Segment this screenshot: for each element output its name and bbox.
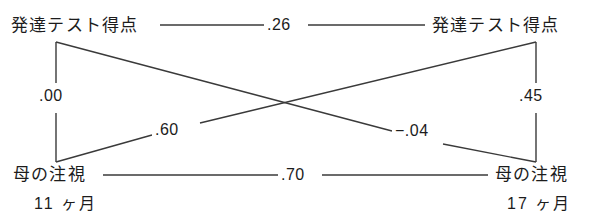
path-diagonal-bottomleft-to-topright-b bbox=[200, 42, 536, 123]
node-label-top-left: 発達テスト得点 bbox=[11, 17, 138, 34]
path-diagonal-topleft-to-bottomright-b bbox=[443, 144, 536, 162]
time-label-right: 17 ヶ月 bbox=[507, 196, 571, 212]
coefficient-left-vertical: .00 bbox=[37, 88, 65, 104]
node-label-top-right: 発達テスト得点 bbox=[432, 17, 559, 34]
path-diagonal-bottomleft-to-topright-a bbox=[56, 135, 152, 162]
coefficient-top-horizontal: .26 bbox=[265, 17, 293, 33]
coefficient-right-vertical: .45 bbox=[517, 88, 545, 104]
coefficient-bottom-horizontal: .70 bbox=[279, 167, 307, 183]
path-diagram: 発達テスト得点 発達テスト得点 母の注視 母の注視 11 ヶ月 17 ヶ月 .2… bbox=[0, 0, 592, 223]
coefficient-diagonal-up: −.04 bbox=[392, 122, 432, 140]
coefficient-diagonal-down: .60 bbox=[152, 121, 182, 139]
node-label-bottom-left: 母の注視 bbox=[13, 166, 86, 183]
time-label-left: 11 ヶ月 bbox=[34, 196, 97, 212]
node-label-bottom-right: 母の注視 bbox=[495, 166, 568, 183]
